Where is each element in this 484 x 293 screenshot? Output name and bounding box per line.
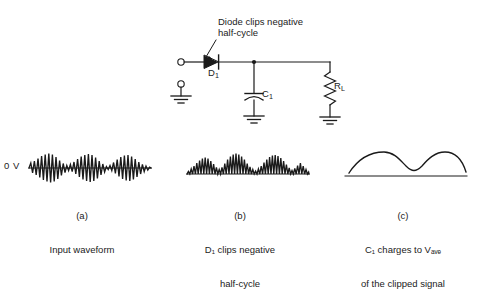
panel-a-tag: (a) xyxy=(22,210,142,221)
resistor-label-main: R xyxy=(334,80,341,91)
capacitor-ground-symbol xyxy=(244,116,264,123)
waveform-panel-c xyxy=(345,152,467,176)
waveform-c-trace xyxy=(349,152,466,173)
zero-volt-label: 0 V xyxy=(4,160,20,171)
panel-b-tag: (b) xyxy=(180,210,300,221)
diode-annotation-line2: half-cycle xyxy=(218,27,258,38)
capacitor-label: C1 xyxy=(262,88,273,99)
capacitor-c1 xyxy=(245,62,263,116)
panel-c-caption: (c) C₁ charges to Vₐᵥₑ of the clipped si… xyxy=(338,188,468,293)
load-ground-symbol xyxy=(320,117,340,124)
panel-b-caption-line1: D₁ clips negative xyxy=(180,244,300,255)
waveform-panel-b xyxy=(187,154,309,175)
input-ground-terminal xyxy=(178,81,184,96)
panel-b-caption: (b) D₁ clips negative half-cycle xyxy=(180,188,300,293)
signal-input-terminal xyxy=(178,59,184,65)
waveform-panel-a xyxy=(29,154,151,183)
panel-c-caption-line1: C₁ charges to Vₐᵥₑ xyxy=(338,244,468,255)
diode-label: D1 xyxy=(208,67,219,78)
panel-a-caption-line1: Input waveform xyxy=(22,244,142,255)
input-ground-symbol xyxy=(171,96,191,103)
panel-a-caption: (a) Input waveform xyxy=(22,188,142,278)
resistor-label-sub: L xyxy=(341,84,345,93)
diode-annotation-line1: Diode clips negative xyxy=(218,16,303,27)
diode-label-main: D xyxy=(208,67,215,78)
panel-c-caption-line2: of the clipped signal xyxy=(338,278,468,289)
capacitor-label-main: C xyxy=(262,88,269,99)
waveform-b-trace xyxy=(187,154,309,175)
capacitor-label-sub: 1 xyxy=(269,92,273,101)
panel-c-tag: (c) xyxy=(338,210,468,221)
resistor-label: RL xyxy=(334,80,345,91)
diode-annotation: Diode clips negativehalf-cycle xyxy=(218,16,303,38)
diode-label-sub: 1 xyxy=(215,71,219,80)
panel-b-caption-line2: half-cycle xyxy=(180,278,300,289)
